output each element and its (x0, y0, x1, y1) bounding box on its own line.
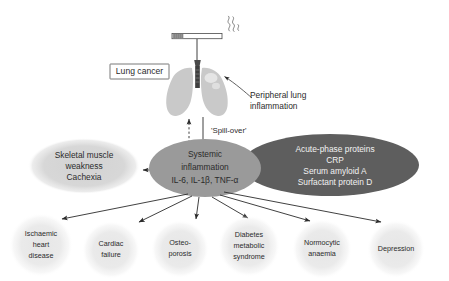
outcome-label-line: Normocytic (304, 238, 340, 247)
outcome-depression: Depression (367, 220, 425, 278)
arrow-to-osteoporosis (196, 197, 199, 219)
outcome-label-line: heart (33, 240, 49, 249)
skeletal-line2: weakness (64, 161, 102, 171)
lungs-icon (166, 60, 228, 116)
outcome-cardiac-failure: Cardiacfailure (82, 221, 140, 279)
acute-phase-proteins-ellipse: Acute-phase proteins CRP Serum amyloid A… (241, 134, 419, 196)
systemic-inflammation-ellipse: Systemic inflammation IL-6, IL-1β, TNF-α (149, 139, 261, 197)
outcome-label-line: anaemia (308, 249, 336, 258)
systemic-line3: IL-6, IL-1β, TNF-α (172, 175, 239, 185)
outcome-label-line: Cardiac (99, 239, 124, 248)
peripheral-label-line2: inflammation (250, 101, 298, 111)
peripheral-lung-inflammation-annotation: Peripheral lung inflammation (225, 77, 307, 112)
outcome-arrows (62, 192, 381, 222)
outcome-ischaemic-heart-disease: Ischaemicheartdisease (9, 213, 73, 277)
outcome-label-line: disease (29, 251, 54, 260)
skeletal-line1: Skeletal muscle (55, 150, 114, 160)
peripheral-label-line1: Peripheral lung (250, 90, 307, 100)
acute-phase-line3: Serum amyloid A (303, 166, 367, 176)
lung-cancer-label: Lung cancer (110, 64, 169, 79)
acute-phase-line1: Acute-phase proteins (295, 144, 374, 154)
spill-over-label: 'Spill-over' (211, 126, 247, 135)
pathway-diagram: Lung cancer Peripheral lung inflammation… (0, 0, 449, 281)
arrow-to-diabetes (212, 197, 248, 218)
lung-cancer-label-text: Lung cancer (116, 66, 163, 76)
outcome-label-line: failure (101, 250, 121, 259)
acute-phase-line2: CRP (326, 155, 344, 165)
skeletal-line3: Cachexia (67, 172, 102, 182)
outcome-label-line: Depression (378, 244, 414, 253)
systemic-line2: inflammation (181, 162, 229, 172)
arrow-to-cardiac-failure (139, 196, 192, 222)
outcome-label-line: Ischaemic (25, 229, 58, 238)
arrow-to-normocytic-anaemia (220, 195, 310, 221)
outcome-normocytic-anaemia: Normocyticanaemia (292, 219, 352, 279)
systemic-line1: Systemic (188, 149, 222, 159)
acute-phase-line4: Surfactant protein D (298, 177, 372, 187)
outcome-label-line: metabolic (234, 241, 265, 250)
arrow-to-ischaemic-heart-disease (62, 194, 188, 219)
skeletal-muscle-ellipse: Skeletal muscle weakness Cachexia (28, 138, 140, 194)
cigarette-icon (172, 34, 222, 39)
outcome-circle-group: IschaemicheartdiseaseCardiacfailureOsteo… (9, 213, 425, 279)
smoke-wisp-icon (228, 16, 239, 31)
outcome-osteoporosis: Osteo-porosis (151, 220, 209, 278)
outcome-label-line: porosis (168, 249, 192, 258)
outcome-label-line: Osteo- (169, 238, 191, 247)
outcome-label-line: Diabetes (235, 230, 264, 239)
outcome-diabetes-metabolic-syndrome: Diabetesmetabolicsyndrome (218, 215, 280, 277)
outcome-label-line: syndrome (233, 252, 265, 261)
